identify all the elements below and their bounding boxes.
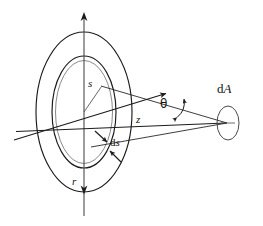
label-ring-width-symbol: s: [116, 136, 120, 148]
label-area-element-dA: dA: [217, 82, 231, 95]
label-disc-radius-r: r: [72, 176, 76, 187]
label-axial-distance-z: z: [136, 114, 140, 125]
physics-diagram-figure: s ds r z θ dA: [0, 0, 263, 226]
axial-distance-line: [16, 123, 226, 132]
ring-width-arrow-upper: [95, 131, 107, 142]
label-ring-radius-s: s: [88, 78, 92, 89]
label-ring-width-ds: ds: [110, 137, 120, 148]
label-area-element-symbol: A: [224, 81, 232, 96]
ring-radius-line: [84, 87, 102, 113]
ring-width-arrow-lower: [110, 151, 121, 162]
label-angle-theta: θ: [160, 98, 167, 110]
diagram-canvas: [0, 0, 263, 226]
